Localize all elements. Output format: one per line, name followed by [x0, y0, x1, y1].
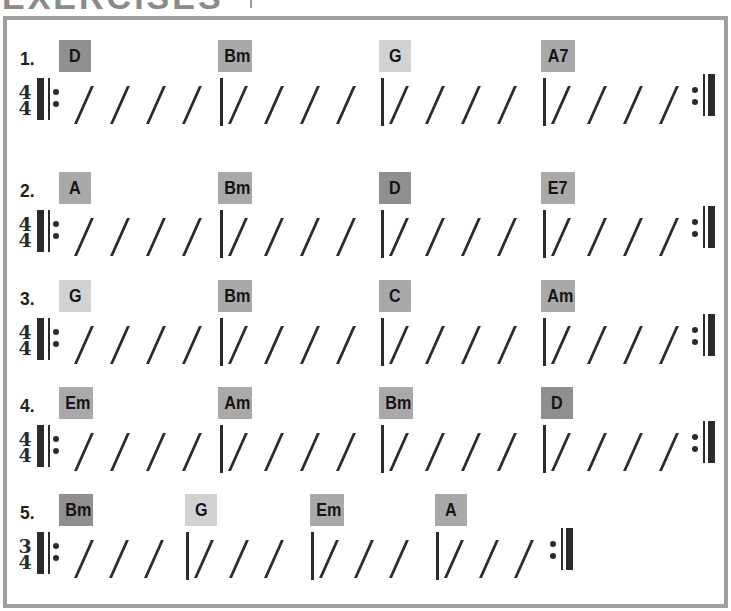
beat-slash — [109, 540, 128, 578]
time-signature: 44 — [17, 324, 33, 356]
repeat-start-dot — [53, 448, 59, 454]
repeat-end-thick-bar — [708, 421, 715, 463]
chord-box: Em — [310, 494, 344, 526]
chord-box: A7 — [541, 40, 575, 72]
barline — [381, 318, 384, 366]
barline — [543, 210, 546, 258]
time-signature-bottom: 4 — [17, 100, 33, 116]
repeat-start-thick-bar — [37, 78, 44, 120]
repeat-start-thin-bar — [48, 78, 50, 120]
repeat-start-thick-bar — [37, 425, 44, 467]
beat-slash — [300, 326, 319, 364]
chord-box: D — [379, 172, 411, 204]
beat-slash — [551, 326, 570, 364]
beat-slash — [228, 326, 247, 364]
beat-slash — [300, 86, 319, 124]
exercise-number: 2. — [20, 180, 35, 202]
exercise-row: 1.DBmGA744 — [7, 40, 724, 140]
beat-slash — [336, 326, 355, 364]
beat-slash — [110, 218, 129, 256]
beat-slash — [110, 326, 129, 364]
beat-slash — [479, 540, 498, 578]
beat-slash — [514, 540, 533, 578]
chord-box: Am — [541, 280, 575, 312]
chord-name: Bm — [224, 40, 250, 72]
beat-slash — [389, 86, 408, 124]
beat-slash — [74, 218, 93, 256]
repeat-end-thin-bar — [703, 206, 705, 248]
exercise-number: 3. — [20, 288, 35, 310]
repeat-start-dot — [53, 89, 59, 95]
beat-slash — [264, 218, 283, 256]
chord-box: E7 — [541, 172, 575, 204]
beat-slash — [228, 218, 247, 256]
chord-name: Bm — [65, 494, 91, 526]
chord-name: Bm — [224, 172, 250, 204]
repeat-end-dot — [692, 99, 698, 105]
time-signature: 44 — [17, 431, 33, 463]
barline — [220, 425, 223, 473]
chord-box: A — [59, 172, 91, 204]
repeat-start-thick-bar — [37, 318, 44, 360]
repeat-end-thin-bar — [703, 314, 705, 356]
barline — [543, 78, 546, 126]
repeat-end-thin-bar — [703, 421, 705, 463]
beat-slash — [182, 86, 201, 124]
title-divider — [250, 0, 252, 8]
repeat-start-dot — [53, 101, 59, 107]
chord-name: G — [195, 494, 208, 526]
chord-box: G — [59, 280, 91, 312]
chord-name: A — [69, 172, 81, 204]
chord-name: G — [389, 40, 402, 72]
barline — [220, 318, 223, 366]
chord-name: D — [551, 387, 563, 419]
beat-slash — [110, 433, 129, 471]
beat-slash — [389, 433, 408, 471]
repeat-start-dot — [53, 543, 59, 549]
beat-slash — [497, 433, 516, 471]
beat-slash — [461, 326, 480, 364]
barline — [381, 78, 384, 126]
beat-slash — [74, 86, 93, 124]
barline — [543, 318, 546, 366]
beat-slash — [389, 326, 408, 364]
repeat-start-thin-bar — [48, 210, 50, 252]
repeat-end-dot — [692, 219, 698, 225]
exercise-row: 4.EmAmBmD44 — [7, 387, 724, 487]
repeat-end-dot — [692, 231, 698, 237]
chord-box: D — [59, 40, 91, 72]
repeat-end-thick-bar — [708, 314, 715, 356]
repeat-end-thin-bar — [561, 528, 563, 570]
chord-box: C — [379, 280, 411, 312]
beat-slash — [425, 86, 444, 124]
beat-slash — [146, 433, 165, 471]
chord-name: Bm — [224, 280, 250, 312]
beat-slash — [659, 433, 678, 471]
beat-slash — [146, 326, 165, 364]
repeat-start-dot — [53, 329, 59, 335]
chord-box: Bm — [218, 40, 252, 72]
chord-name: D — [389, 172, 401, 204]
beat-slash — [425, 433, 444, 471]
repeat-start-dot — [53, 233, 59, 239]
beat-slash — [336, 86, 355, 124]
chord-name: A — [445, 494, 457, 526]
chord-name: C — [389, 280, 401, 312]
exercises-frame: 1.DBmGA7442.ABmDE7443.GBmCAm444.EmAmBmD4… — [3, 16, 728, 608]
chord-box: G — [379, 40, 411, 72]
repeat-start-thick-bar — [37, 210, 44, 252]
beat-slash — [228, 86, 247, 124]
beat-slash — [587, 218, 606, 256]
exercise-number: 4. — [20, 395, 35, 417]
beat-slash — [354, 540, 373, 578]
beat-slash — [461, 218, 480, 256]
beat-slash — [659, 86, 678, 124]
barline — [381, 425, 384, 473]
exercise-row: 5.BmGEmA34 — [7, 494, 724, 594]
beat-slash — [182, 326, 201, 364]
beat-slash — [264, 326, 283, 364]
chord-name: Am — [547, 280, 573, 312]
beat-slash — [497, 218, 516, 256]
exercise-number: 1. — [20, 48, 35, 70]
chord-name: Em — [316, 494, 341, 526]
